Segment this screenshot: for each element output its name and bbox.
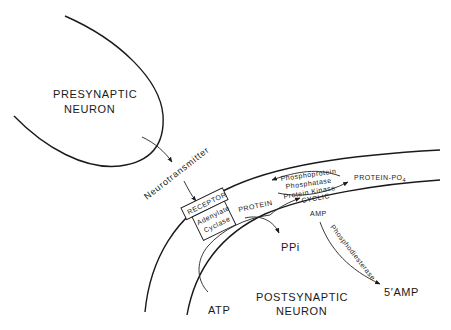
- binding-arrow: [184, 181, 196, 201]
- release-arrow: [142, 137, 172, 162]
- presynaptic-label-2: NEURON: [64, 103, 115, 115]
- presynaptic-label-1: PRESYNAPTIC: [53, 88, 137, 100]
- ppi-label: PPi: [281, 241, 300, 253]
- protein-label: PROTEIN: [238, 199, 273, 213]
- protein-po4-label: PROTEIN-PO4: [354, 174, 406, 183]
- amp-label: AMP: [310, 210, 327, 217]
- protein-po4-subscript: 4: [403, 177, 407, 183]
- atp-label: ATP: [208, 304, 230, 316]
- postsynaptic-label-2: NEURON: [276, 305, 327, 317]
- protein-po4-text: PROTEIN-PO: [354, 174, 403, 181]
- phosphodiesterase-label: Phosphodiesterase: [328, 223, 376, 282]
- neurotransmitter-label: Neurotransmitter: [142, 145, 211, 202]
- synapse-diagram: Neurotransmitter RECEPTOR Adenylate Cycl…: [0, 0, 451, 330]
- five-amp-label: 5′AMP: [384, 286, 419, 298]
- postsynaptic-label-1: POSTSYNAPTIC: [256, 291, 348, 303]
